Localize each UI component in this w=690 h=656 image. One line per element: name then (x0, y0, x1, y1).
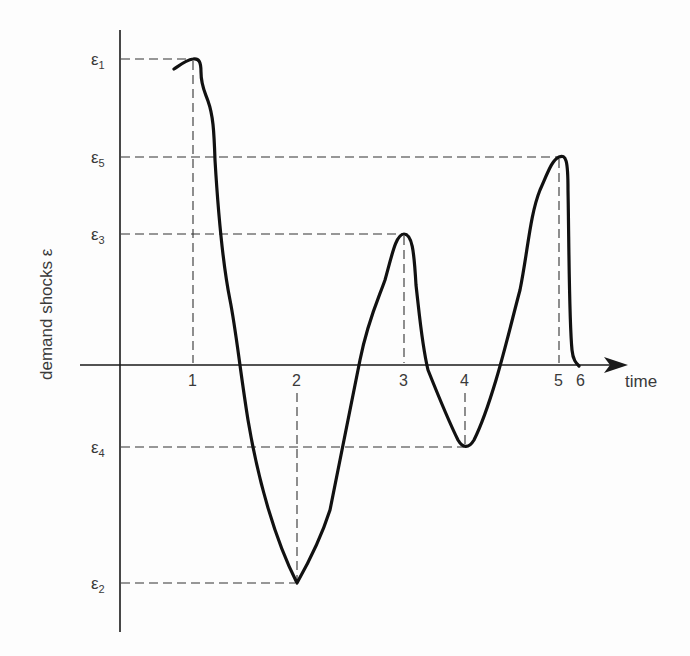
guide-lines (121, 59, 559, 583)
x-tick-4: 4 (460, 372, 469, 389)
x-tick-5: 5 (554, 372, 563, 389)
demand-shock-curve (174, 59, 579, 583)
x-tick-1: 1 (188, 372, 197, 389)
y-tick-labels: ε1 ε5 ε3 ε4 ε2 (91, 50, 105, 595)
chart-figure: ε1 ε5 ε3 ε4 ε2 1 2 3 4 5 6 time demand s… (0, 0, 690, 656)
y-axis-label: demand shocks ε (37, 248, 56, 380)
x-tick-labels: 1 2 3 4 5 6 (188, 372, 585, 389)
x-tick-3: 3 (399, 372, 408, 389)
y-tick-eps5: ε5 (91, 148, 105, 169)
x-tick-6: 6 (576, 372, 585, 389)
x-tick-2: 2 (292, 372, 301, 389)
y-tick-eps4: ε4 (91, 438, 105, 459)
y-tick-eps2: ε2 (91, 574, 105, 595)
chart-canvas: ε1 ε5 ε3 ε4 ε2 1 2 3 4 5 6 time demand s… (0, 0, 690, 656)
y-tick-eps1: ε1 (91, 50, 105, 71)
x-axis-label: time (625, 372, 657, 391)
y-tick-eps3: ε3 (91, 225, 105, 246)
